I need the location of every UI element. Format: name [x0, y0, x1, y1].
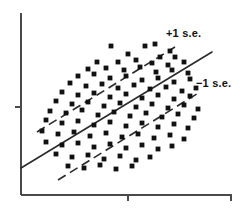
data-point	[128, 114, 133, 119]
data-point	[134, 158, 139, 163]
data-point	[124, 124, 129, 129]
data-point	[88, 134, 93, 139]
data-point	[60, 90, 65, 95]
data-point	[140, 96, 145, 101]
data-point	[180, 89, 185, 94]
data-point	[102, 104, 107, 109]
data-point	[144, 111, 149, 116]
data-point	[118, 154, 123, 159]
data-point	[102, 157, 107, 162]
data-point	[156, 76, 161, 81]
data-point	[40, 129, 45, 134]
data-point	[166, 63, 171, 68]
lower-se-label: −1 s.e.	[196, 78, 231, 89]
data-point	[186, 71, 191, 76]
data-point	[44, 140, 49, 145]
data-point	[80, 108, 85, 113]
data-point	[84, 84, 89, 89]
data-point	[172, 122, 177, 127]
data-point	[98, 163, 103, 168]
data-point	[134, 58, 139, 63]
data-point	[108, 142, 113, 147]
data-point	[124, 92, 129, 97]
scatter-points	[40, 42, 201, 172]
data-point	[86, 153, 91, 158]
data-point	[150, 61, 155, 66]
data-point	[182, 60, 187, 65]
data-point	[116, 60, 121, 65]
data-point	[150, 102, 155, 107]
data-point	[68, 81, 73, 86]
confidence-band-lines	[37, 47, 200, 180]
upper-se-label: +1 s.e.	[166, 28, 201, 39]
data-point	[92, 72, 97, 77]
data-point	[148, 155, 153, 160]
data-point	[154, 70, 159, 75]
data-point	[140, 78, 145, 83]
data-point	[108, 120, 113, 125]
data-point	[140, 121, 145, 126]
data-point	[66, 164, 71, 169]
scatter-plot-figure: +1 s.e. −1 s.e.	[0, 0, 246, 215]
data-point	[104, 66, 109, 71]
data-point	[166, 106, 171, 111]
data-point	[143, 44, 148, 49]
data-point	[168, 49, 173, 54]
data-point	[196, 107, 201, 112]
data-point	[188, 94, 193, 99]
data-point	[192, 116, 197, 121]
data-point	[120, 135, 125, 140]
data-point	[170, 144, 175, 149]
data-point	[112, 110, 117, 115]
data-point	[54, 152, 59, 157]
data-point	[188, 77, 193, 82]
data-point	[108, 95, 113, 100]
data-point	[60, 121, 65, 126]
data-point	[172, 97, 177, 102]
data-point	[44, 118, 49, 123]
data-point	[164, 85, 169, 90]
data-point	[92, 123, 97, 128]
data-point	[153, 42, 158, 47]
data-point	[56, 132, 61, 137]
data-point	[122, 68, 127, 73]
data-point	[54, 99, 59, 104]
data-point	[92, 91, 97, 96]
data-point	[95, 60, 100, 65]
data-point	[158, 55, 163, 60]
data-point	[168, 133, 173, 138]
data-point	[82, 166, 87, 171]
data-point	[104, 131, 109, 136]
data-point	[70, 102, 75, 107]
data-point	[182, 137, 187, 142]
data-point	[156, 125, 161, 130]
data-point	[109, 44, 114, 49]
data-point	[148, 87, 153, 92]
data-point	[173, 55, 178, 60]
data-point	[118, 101, 123, 106]
data-point	[48, 109, 53, 114]
data-point	[138, 65, 143, 70]
data-point	[182, 103, 187, 108]
upper-se-line	[37, 47, 175, 132]
data-point	[124, 146, 129, 151]
data-point	[172, 80, 177, 85]
data-point	[126, 52, 131, 57]
data-point	[130, 164, 135, 169]
data-point	[116, 86, 121, 91]
plot-canvas	[0, 0, 246, 215]
data-point	[124, 74, 129, 79]
data-point	[76, 119, 81, 124]
data-point	[186, 126, 191, 131]
data-point	[64, 111, 69, 116]
data-point	[152, 136, 157, 141]
data-point	[170, 68, 175, 73]
data-point	[76, 141, 81, 146]
data-point	[72, 130, 77, 135]
data-point	[176, 112, 181, 117]
data-point	[108, 76, 113, 81]
data-point	[156, 93, 161, 98]
data-point	[160, 115, 165, 120]
data-point	[156, 147, 161, 152]
data-point	[92, 145, 97, 150]
